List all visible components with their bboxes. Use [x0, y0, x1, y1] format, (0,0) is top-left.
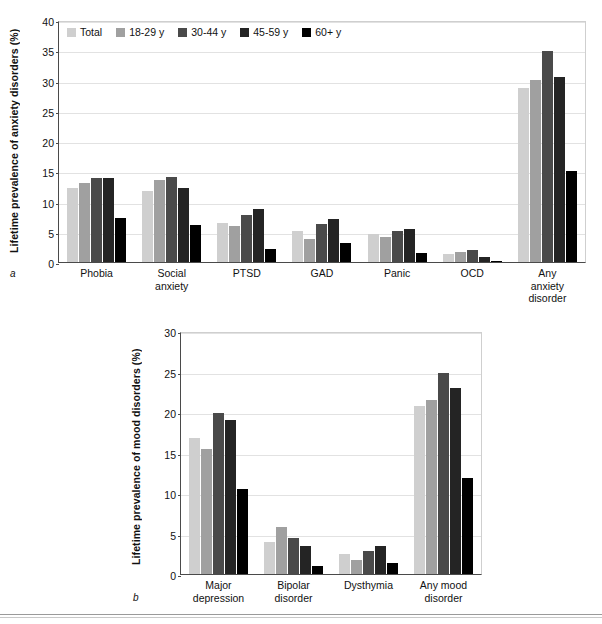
bar — [414, 406, 425, 574]
bar — [368, 234, 379, 262]
y-tick-label: 0 — [48, 258, 59, 270]
bar — [351, 560, 362, 574]
bar — [380, 237, 391, 262]
y-tick-label: 20 — [164, 408, 181, 420]
bar-group-bars — [264, 333, 323, 574]
bar — [462, 478, 473, 574]
y-tick-label: 30 — [42, 77, 59, 89]
bar-group: Phobia — [59, 22, 134, 262]
y-tick-label: 10 — [42, 198, 59, 210]
legend-item-label: Total — [80, 26, 102, 38]
bar — [213, 413, 224, 574]
x-category-label: Any mood disorder — [406, 574, 481, 604]
bar — [438, 373, 449, 574]
bar — [375, 546, 386, 574]
panel-a-plot-area: 0510152025303540 PhobiaSocial anxietyPTS… — [58, 21, 586, 263]
bar — [328, 219, 339, 262]
bar — [455, 252, 466, 262]
panel-a-y-axis-title: Lifetime prevalence of anxiety disorders… — [8, 18, 20, 263]
bar — [416, 253, 427, 262]
x-category-label: OCD — [435, 262, 510, 280]
bar — [265, 249, 276, 262]
bar — [288, 538, 299, 574]
bar-group: Bipolar disorder — [256, 333, 331, 574]
y-tick-label: 0 — [170, 570, 181, 582]
bar — [237, 489, 248, 574]
y-tick-label: 5 — [170, 530, 181, 542]
y-tick-label: 5 — [48, 228, 59, 240]
bar — [190, 225, 201, 263]
legend-item: Total — [67, 26, 102, 38]
x-category-label: GAD — [284, 262, 359, 280]
y-tick-label: 20 — [42, 137, 59, 149]
bar-group-bars — [189, 333, 248, 574]
panel-a-letter: a — [10, 268, 16, 279]
bar — [79, 183, 90, 262]
panel-a-bar-groups: PhobiaSocial anxietyPTSDGADPanicOCDAny a… — [59, 22, 585, 262]
bar — [426, 400, 437, 574]
y-tick-label: 25 — [164, 368, 181, 380]
bar — [115, 218, 126, 262]
bar-group-bars — [368, 22, 427, 262]
x-category-label: Any anxiety disorder — [510, 262, 585, 305]
legend-swatch-icon — [240, 28, 249, 37]
bar — [518, 88, 529, 262]
figure-bottom-rule — [0, 614, 602, 615]
bar — [142, 191, 153, 262]
legend-item: 18-29 y — [116, 26, 164, 38]
bar-group: Social anxiety — [134, 22, 209, 262]
x-category-label: PTSD — [209, 262, 284, 280]
bar — [566, 171, 577, 262]
y-tick-label: 15 — [42, 167, 59, 179]
bar-group-bars — [67, 22, 126, 262]
bar-group: PTSD — [209, 22, 284, 262]
bar — [467, 250, 478, 262]
bar-group-bars — [443, 22, 502, 262]
x-category-label: Major depression — [181, 574, 256, 604]
bar-group: Dysthymia — [331, 333, 406, 574]
bar — [304, 239, 315, 262]
bar — [387, 563, 398, 574]
y-tick-label: 30 — [164, 327, 181, 339]
bar — [166, 177, 177, 262]
bar-group-bars — [518, 22, 577, 262]
legend-item-label: 18-29 y — [129, 26, 164, 38]
bar-group: Any mood disorder — [406, 333, 481, 574]
chart-legend: Total18-29 y30-44 y45-59 y60+ y — [67, 26, 341, 38]
x-category-label: Dysthymia — [331, 574, 406, 592]
bar-group: Any anxiety disorder — [510, 22, 585, 262]
bar — [443, 254, 454, 262]
bar — [264, 542, 275, 574]
bar-group-bars — [217, 22, 276, 262]
bar — [276, 527, 287, 574]
bar — [217, 223, 228, 262]
panel-b-letter: b — [133, 592, 139, 603]
bar — [154, 180, 165, 262]
bar — [316, 224, 327, 262]
bar — [91, 178, 102, 262]
bar-group: Major depression — [181, 333, 256, 574]
bar-group-bars — [292, 22, 351, 262]
panel-b-plot-area: 051015202530 Major depressionBipolar dis… — [180, 332, 482, 575]
y-tick-label: 35 — [42, 46, 59, 58]
bar — [363, 551, 374, 574]
legend-swatch-icon — [116, 28, 125, 37]
legend-item: 60+ y — [302, 26, 341, 38]
figure-bottom-rule-secondary — [0, 617, 602, 618]
bar-group-bars — [414, 333, 473, 574]
bar-group-bars — [142, 22, 201, 262]
bar — [225, 420, 236, 574]
panel-a-anxiety-chart: Lifetime prevalence of anxiety disorders… — [0, 0, 602, 310]
bar-group: GAD — [284, 22, 359, 262]
bar — [103, 178, 114, 262]
legend-swatch-icon — [302, 28, 311, 37]
y-tick-label: 40 — [42, 16, 59, 28]
bar — [404, 229, 415, 262]
legend-swatch-icon — [67, 28, 76, 37]
bar — [292, 231, 303, 262]
panel-b-bar-groups: Major depressionBipolar disorderDysthymi… — [181, 333, 481, 574]
panel-b-mood-chart: Lifetime prevalence of mood disorders (%… — [0, 310, 602, 610]
bar — [392, 231, 403, 262]
bar — [340, 243, 351, 262]
bar — [201, 449, 212, 574]
